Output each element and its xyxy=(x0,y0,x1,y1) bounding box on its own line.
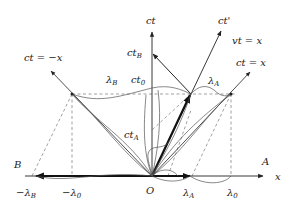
ct-0-label: ct0 xyxy=(131,74,146,87)
spacetime-diagram: ct ct' vt = x ct = x ct = −x ctB ct0 ctA… xyxy=(0,0,292,211)
lambda-a-label: λA xyxy=(207,75,219,88)
event-b xyxy=(71,93,74,96)
minus-lambda-0-label: −λ0 xyxy=(62,187,82,200)
ct-a-label: ctA xyxy=(124,129,139,142)
x-lambda-a-label: λA xyxy=(182,187,194,200)
ct-axis-label: ct xyxy=(146,15,157,26)
minus-lambda-b-label: −λB xyxy=(16,187,36,200)
x-axis-label: x xyxy=(275,171,281,182)
point-b-label: B xyxy=(13,159,21,170)
origin-label: O xyxy=(146,185,154,196)
light-line-right xyxy=(152,72,250,176)
event-a xyxy=(230,93,233,96)
ct-equals-x-label: ct = x xyxy=(236,57,266,68)
point-a-label: A xyxy=(261,156,269,167)
ct-prime-axis-label: ct' xyxy=(218,15,230,26)
ct-equals-minus-x-label: ct = −x xyxy=(24,52,63,63)
ct-b-label: ctB xyxy=(127,47,142,60)
thick-worldline-vector xyxy=(152,95,190,176)
signal-to-ct-b xyxy=(153,54,191,94)
light-line-left xyxy=(51,71,152,176)
lambda-b-label: λB xyxy=(105,74,118,87)
x-lambda-0-label: λ0 xyxy=(226,187,238,200)
vt-equals-x-label: vt = x xyxy=(232,35,262,46)
